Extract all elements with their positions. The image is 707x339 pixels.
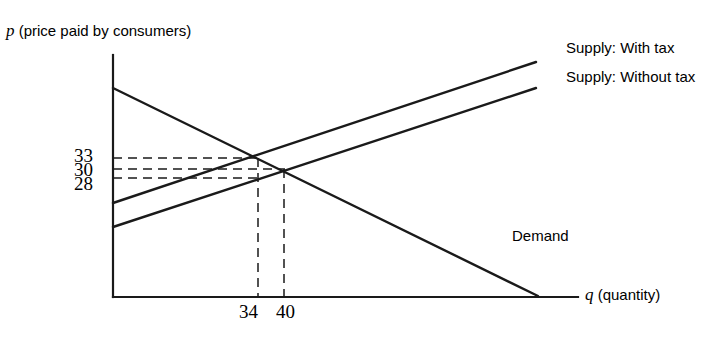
y-axis-symbol: p bbox=[6, 21, 15, 40]
x-tick-label-40: 40 bbox=[276, 302, 295, 321]
supply-without-tax-label: Supply: Without tax bbox=[566, 69, 695, 84]
y-axis-title: p (price paid by consumers) bbox=[6, 22, 191, 39]
y-tick-label-28: 28 bbox=[74, 174, 93, 193]
supply-with-tax-label: Supply: With tax bbox=[566, 40, 674, 55]
axes-group bbox=[113, 55, 578, 297]
x-axis-title: q (quantity) bbox=[585, 286, 660, 303]
supply-with-tax-curve bbox=[113, 62, 536, 203]
x-axis-symbol: q bbox=[585, 285, 594, 304]
curves-group bbox=[113, 62, 538, 296]
supply-demand-figure: p (price paid by consumers) q (quantity)… bbox=[0, 0, 707, 339]
x-tick-label-34: 34 bbox=[239, 302, 258, 321]
y-axis-title-text: (price paid by consumers) bbox=[15, 22, 192, 39]
demand-label: Demand bbox=[512, 228, 569, 243]
demand-curve bbox=[113, 88, 538, 296]
x-axis-title-text: (quantity) bbox=[594, 286, 661, 303]
